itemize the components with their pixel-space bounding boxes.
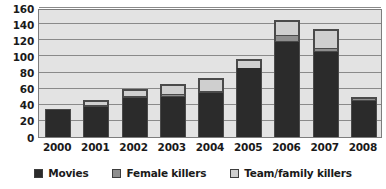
- bar-stack: [160, 84, 186, 137]
- chart-legend: MoviesFemale killersTeam/family killers: [0, 162, 386, 184]
- bar-group: [351, 10, 377, 137]
- y-axis: 020406080100120140160: [0, 4, 34, 143]
- bar-group: [160, 10, 186, 137]
- gridline: [39, 7, 381, 8]
- bar-segment: [352, 101, 376, 137]
- stacked-bar-chart: 020406080100120140160 200020012002200320…: [0, 0, 386, 189]
- bar-segment: [275, 42, 299, 137]
- bar-group: [45, 10, 71, 137]
- bar-stack: [236, 59, 262, 137]
- bar-segment: [237, 60, 261, 68]
- y-axis-tick-label: 100: [0, 52, 34, 63]
- bar-segment: [46, 110, 70, 137]
- y-axis-tick-label: 60: [0, 84, 34, 95]
- legend-item: Movies: [34, 167, 88, 179]
- bar-segment: [161, 97, 185, 137]
- bar-segment: [314, 30, 338, 49]
- bar-stack: [83, 100, 109, 137]
- legend-label: Movies: [48, 167, 88, 179]
- bar-segment: [275, 21, 299, 36]
- bar-segment: [161, 85, 185, 95]
- bars-layer: [39, 10, 381, 137]
- bar-stack: [122, 89, 148, 137]
- bar-group: [313, 10, 339, 137]
- x-axis-tick-label: 2001: [76, 141, 114, 154]
- bar-segment: [199, 93, 223, 137]
- bar-stack: [351, 97, 377, 138]
- y-axis-tick-label: 20: [0, 116, 34, 127]
- x-axis: 200020012002200320042005200620072008: [38, 141, 382, 157]
- square-swatch-icon: [112, 169, 121, 178]
- x-axis-tick-label: 2005: [229, 141, 267, 154]
- bar-group: [198, 10, 224, 137]
- bar-segment: [237, 68, 261, 137]
- x-axis-tick-label: 2003: [153, 141, 191, 154]
- bar-group: [83, 10, 109, 137]
- y-axis-tick-label: 80: [0, 68, 34, 79]
- bar-segment: [84, 107, 108, 137]
- y-axis-tick-label: 140: [0, 20, 34, 31]
- legend-item: Team/family killers: [230, 167, 352, 179]
- bar-group: [236, 10, 262, 137]
- legend-label: Female killers: [126, 167, 206, 179]
- legend-item: Female killers: [112, 167, 206, 179]
- x-axis-tick-label: 2008: [344, 141, 382, 154]
- plot-area: [38, 9, 382, 138]
- bar-segment: [314, 52, 338, 137]
- x-axis-tick-label: 2002: [114, 141, 152, 154]
- square-swatch-icon: [34, 169, 43, 178]
- bar-stack: [274, 20, 300, 137]
- y-axis-tick-label: 160: [0, 4, 34, 15]
- x-axis-tick-label: 2000: [38, 141, 76, 154]
- y-axis-tick-label: 120: [0, 36, 34, 47]
- y-axis-tick-label: 40: [0, 100, 34, 111]
- bar-group: [274, 10, 300, 137]
- x-axis-tick-label: 2007: [306, 141, 344, 154]
- bar-segment: [123, 98, 147, 137]
- bar-segment: [199, 79, 223, 91]
- x-axis-tick-label: 2004: [191, 141, 229, 154]
- bar-group: [122, 10, 148, 137]
- square-swatch-icon: [230, 169, 239, 178]
- bar-stack: [45, 109, 71, 137]
- bar-stack: [313, 29, 339, 137]
- legend-label: Team/family killers: [244, 167, 352, 179]
- y-axis-tick-label: 0: [0, 133, 34, 144]
- x-axis-tick-label: 2006: [267, 141, 305, 154]
- bar-stack: [198, 78, 224, 137]
